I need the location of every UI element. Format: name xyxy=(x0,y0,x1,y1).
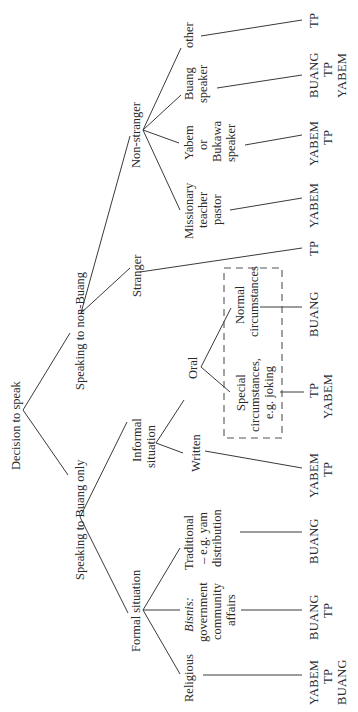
svg-text:YABEM: YABEM xyxy=(307,660,321,705)
svg-text:YABEM: YABEM xyxy=(321,374,335,419)
language-choice-tree-diagram: Decision to speak Speaking to Buang only… xyxy=(0,0,358,712)
node-traditional: Traditional – e.g. yam distribution xyxy=(182,509,224,570)
svg-text:YABEM: YABEM xyxy=(335,53,349,98)
svg-text:BUANG: BUANG xyxy=(307,518,321,564)
svg-text:TP: TP xyxy=(307,241,321,256)
outcome-written: YABEM TP xyxy=(307,453,335,498)
node-non-stranger: Non-stranger xyxy=(129,101,143,168)
node-other: other xyxy=(182,21,196,48)
node-buang-speaker: Buang speaker xyxy=(182,64,210,103)
svg-text:teacher: teacher xyxy=(196,191,210,228)
svg-text:Bisnis:: Bisnis: xyxy=(182,597,196,632)
svg-text:TP: TP xyxy=(307,383,321,398)
node-special-circumstances: Special circumstances, e.g. joking xyxy=(234,358,276,432)
outcome-special-circumstances: TP YABEM xyxy=(307,374,335,419)
svg-text:YABEM: YABEM xyxy=(307,183,321,228)
outcome-other: TP xyxy=(307,13,321,28)
outcome-labels: YABEM TP BUANG BUANG TP BUANG YABEM TP T… xyxy=(307,13,349,705)
svg-text:Normal: Normal xyxy=(233,285,247,324)
svg-text:distribution: distribution xyxy=(210,509,224,567)
outcome-yabem-bukawa-speaker: YABEM TP xyxy=(307,121,335,166)
svg-text:affairs: affairs xyxy=(224,594,238,626)
node-informal-situation-2: situation xyxy=(144,424,158,468)
node-informal-situation-1: Informal xyxy=(130,418,144,462)
svg-text:Special: Special xyxy=(234,374,248,411)
outcome-normal-circumstances: BUANG xyxy=(307,291,321,337)
svg-text:BUANG: BUANG xyxy=(335,659,349,705)
node-speaking-to-non-buang: Speaking to non-Buang xyxy=(73,271,87,390)
svg-text:– e.g. yam: – e.g. yam xyxy=(196,512,210,565)
svg-text:Missionary: Missionary xyxy=(182,182,196,239)
node-stranger: Stranger xyxy=(130,254,144,297)
node-written: Written xyxy=(189,434,203,472)
svg-text:BUANG: BUANG xyxy=(307,291,321,337)
svg-text:community: community xyxy=(210,582,224,640)
tree-edges xyxy=(23,20,304,675)
svg-text:TP: TP xyxy=(321,669,335,684)
node-labels: Decision to speak Speaking to Buang only… xyxy=(9,21,276,702)
svg-text:pastor: pastor xyxy=(210,194,224,225)
svg-text:TP: TP xyxy=(321,603,335,618)
svg-text:speaker: speaker xyxy=(224,123,238,162)
node-oral: Oral xyxy=(186,356,200,379)
node-formal-situation: Formal situation xyxy=(129,569,143,652)
node-religious: Religious xyxy=(182,654,196,702)
svg-text:Buang: Buang xyxy=(182,67,196,100)
svg-text:circumstances,: circumstances, xyxy=(248,358,262,432)
node-normal-circumstances: Normal circumstances xyxy=(233,266,261,337)
svg-text:BUANG: BUANG xyxy=(307,594,321,640)
svg-text:Traditional: Traditional xyxy=(182,514,196,570)
svg-text:YABEM: YABEM xyxy=(307,453,321,498)
svg-text:TP: TP xyxy=(321,130,335,145)
node-root: Decision to speak xyxy=(9,380,23,470)
node-missionary-teacher-pastor: Missionary teacher pastor xyxy=(182,182,224,239)
outcome-stranger: TP xyxy=(307,241,321,256)
svg-text:BUANG: BUANG xyxy=(307,52,321,98)
outcome-buang-speaker: BUANG TP YABEM xyxy=(307,52,349,98)
svg-text:circumstances: circumstances xyxy=(247,266,261,337)
outcome-religious: YABEM TP BUANG xyxy=(307,659,349,705)
node-speaking-to-buang-only: Speaking to Buang only xyxy=(73,459,87,580)
svg-text:Bukawa: Bukawa xyxy=(210,121,224,162)
outcome-traditional: BUANG xyxy=(307,518,321,564)
outcome-missionary: YABEM xyxy=(307,183,321,228)
svg-text:speaker: speaker xyxy=(196,64,210,103)
svg-text:Yabem: Yabem xyxy=(182,125,196,160)
outcome-bisnis: BUANG TP xyxy=(307,594,335,640)
svg-text:e.g. joking: e.g. joking xyxy=(262,365,276,419)
svg-text:TP: TP xyxy=(321,62,335,77)
svg-text:government: government xyxy=(196,582,210,642)
node-bisnis: Bisnis: government community affairs xyxy=(182,582,238,642)
node-yabem-bukawa-speaker: Yabem or Bukawa speaker xyxy=(182,121,238,162)
svg-text:YABEM: YABEM xyxy=(307,121,321,166)
svg-text:TP: TP xyxy=(307,13,321,28)
svg-text:TP: TP xyxy=(321,462,335,477)
svg-text:or: or xyxy=(196,139,210,150)
